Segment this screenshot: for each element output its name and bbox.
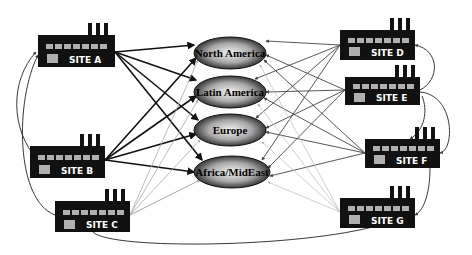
region-north-america[interactable]: North America xyxy=(194,37,266,69)
site-label: SITE C xyxy=(86,220,118,230)
edges-right xyxy=(255,41,365,212)
site-c[interactable]: SITE C xyxy=(55,189,130,232)
site-label: SITE F xyxy=(396,156,427,166)
site-f[interactable]: SITE F xyxy=(365,127,440,168)
region-label: Europe xyxy=(213,124,248,136)
region-label: Africa/MidEast xyxy=(195,166,269,178)
site-d[interactable]: SITE D xyxy=(340,18,415,60)
site-a[interactable]: SITE A xyxy=(38,23,115,67)
region-label: Latin America xyxy=(196,86,265,98)
site-b[interactable]: SITE B xyxy=(30,134,105,178)
site-label: SITE E xyxy=(376,93,407,103)
site-e[interactable]: SITE E xyxy=(345,65,420,105)
region-label: North America xyxy=(195,47,266,59)
region-europe[interactable]: Europe xyxy=(194,114,266,146)
site-label: SITE B xyxy=(61,166,93,176)
region-africa-mideast[interactable]: Africa/MidEast xyxy=(194,156,270,188)
site-label: SITE A xyxy=(69,55,101,65)
site-label: SITE G xyxy=(371,216,404,226)
supply-network-diagram: North America Latin America Europe Afric… xyxy=(0,0,472,255)
region-latin-america[interactable]: Latin America xyxy=(194,76,266,108)
site-label: SITE D xyxy=(371,48,404,58)
site-g[interactable]: SITE G xyxy=(340,186,415,228)
edges-left xyxy=(105,45,202,215)
